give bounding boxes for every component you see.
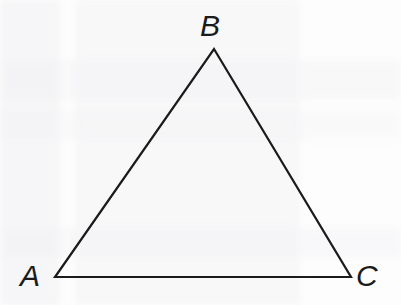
vertex-label-a: A [20,261,40,291]
triangle-outline [55,49,351,277]
triangle-drawing [0,0,401,305]
vertex-label-b: B [200,11,220,41]
triangle-figure: A B C [0,0,401,305]
vertex-label-c: C [356,261,378,291]
